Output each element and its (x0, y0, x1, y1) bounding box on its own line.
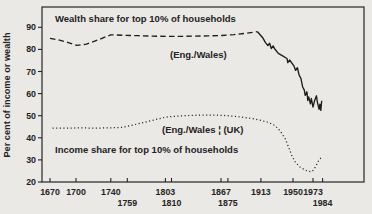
y-tick-label: 90 (26, 22, 36, 32)
y-tick-label: 70 (26, 67, 36, 77)
x-tick-label: 1803 (156, 187, 176, 197)
y-tick-label: 50 (26, 111, 36, 121)
x-tick-label: 1810 (162, 198, 182, 208)
y-tick-label: 60 (26, 89, 36, 99)
plot-frame (42, 7, 364, 182)
chart-figure: Per cent of income or wealth 90807060504… (0, 0, 372, 214)
income-series-label: (Eng./Wales ¦ (UK) (162, 124, 243, 135)
y-tick-label: 20 (26, 177, 36, 187)
x-tick-label: 1913 (251, 187, 271, 197)
y-axis-ticks: 9080706050403020 (26, 22, 42, 187)
x-tick-label: 1867 (211, 187, 231, 197)
wealth-title-label: Wealth share for top 10% of households (55, 13, 236, 24)
x-tick-label: 1875 (218, 198, 238, 208)
y-axis-title: Per cent of income or wealth (2, 32, 12, 157)
x-tick-label: 1950 (283, 187, 303, 197)
y-tick-label: 40 (26, 133, 36, 143)
chart-canvas: Per cent of income or wealth 90807060504… (0, 0, 372, 214)
x-tick-label: 1759 (118, 198, 138, 208)
x-tick-label: 1740 (101, 187, 121, 197)
x-tick-label: 1973 (303, 187, 323, 197)
series-line-dashed (50, 32, 258, 46)
y-tick-label: 80 (26, 44, 36, 54)
x-tick-label: 1984 (313, 198, 333, 208)
x-tick-label: 1670 (40, 187, 60, 197)
wealth-series-label: (Eng./Wales) (170, 49, 227, 60)
x-tick-label: 1700 (66, 187, 86, 197)
income-title-label: Income share for top 10% of households (55, 144, 238, 155)
series-line-solid (258, 32, 322, 111)
y-tick-label: 30 (26, 155, 36, 165)
